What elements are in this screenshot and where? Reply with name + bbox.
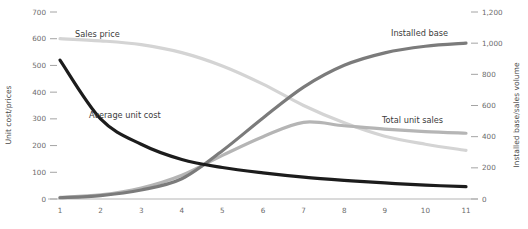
y-tick-label: 300	[32, 114, 46, 123]
y-tick-label: 600	[32, 34, 46, 43]
y2-tick-label: 1,200	[482, 8, 503, 17]
x-tick-label: 1	[58, 206, 63, 215]
x-tick-label: 11	[461, 206, 470, 215]
y2-axis-title: Installed base/sales volume	[512, 62, 521, 168]
x-tick-label: 8	[342, 206, 347, 215]
series-annotation: Average unit cost	[89, 110, 161, 120]
y-tick-label: 400	[32, 88, 46, 97]
series-annotation: Total unit sales	[381, 115, 443, 125]
x-tick-label: 2	[98, 206, 103, 215]
y-tick-label: 100	[32, 168, 46, 177]
y-axis-title: Unit cost/prices	[4, 85, 13, 144]
y2-tick-label: 400	[482, 132, 496, 141]
product-lifecycle-chart: 0100200300400500600700 02004006008001,00…	[0, 0, 528, 229]
y-tick-label: 700	[32, 8, 46, 17]
x-tick-label: 6	[261, 206, 266, 215]
x-tick-label: 5	[220, 206, 225, 215]
x-tick-label: 9	[383, 206, 388, 215]
y-tick-label: 0	[41, 195, 46, 204]
series-annotation: Installed base	[391, 28, 448, 38]
chart-page: 0100200300400500600700 02004006008001,00…	[0, 0, 528, 229]
y2-tick-label: 1,000	[482, 39, 503, 48]
x-tick-label: 7	[301, 206, 306, 215]
y-tick-label: 200	[32, 141, 46, 150]
y-tick-label: 500	[32, 61, 46, 70]
y2-tick-label: 800	[482, 70, 496, 79]
y2-tick-label: 600	[482, 101, 496, 110]
series-annotation: Sales price	[75, 29, 120, 39]
x-tick-label: 3	[139, 206, 144, 215]
y2-tick-label: 200	[482, 163, 496, 172]
x-tick-label: 4	[180, 206, 185, 215]
y2-tick-label: 0	[482, 195, 487, 204]
x-tick-label: 10	[421, 206, 431, 215]
